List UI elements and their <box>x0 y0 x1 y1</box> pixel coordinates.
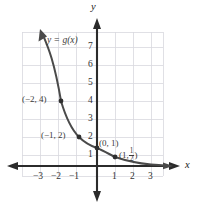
y-axis-label: y <box>91 2 96 13</box>
point-marker-neg1-2 <box>77 135 82 140</box>
y-tick-label-2: 2 <box>88 132 93 142</box>
fraction-one-half: 12 <box>129 148 134 164</box>
x-axis <box>7 162 180 170</box>
coordinate-plane <box>0 0 201 208</box>
y-tick-label-5: 5 <box>88 78 93 88</box>
point-label-1-half: (1,12) <box>119 148 138 164</box>
y-axis <box>93 18 101 202</box>
y-tick-label-7: 7 <box>88 42 93 52</box>
point-label-1-half-prefix: (1, <box>119 150 129 160</box>
point-label-1-half-suffix: ) <box>135 150 138 160</box>
y-tick-label-3: 3 <box>88 114 93 124</box>
x-tick-label-2: 2 <box>130 172 135 182</box>
point-label-neg1-2: (−1, 2) <box>41 131 66 140</box>
function-curve <box>39 29 174 169</box>
x-tick-label-neg2: −2 <box>51 172 61 182</box>
point-label-neg2-4: (−2, 4) <box>22 95 47 104</box>
point-marker-1-half <box>113 155 118 160</box>
x-axis-label: x <box>185 160 190 171</box>
y-tick-label-4: 4 <box>88 96 93 106</box>
y-tick-label-1: 1 <box>88 150 93 160</box>
x-tick-label-neg3: −3 <box>33 172 43 182</box>
x-tick-label-3: 3 <box>148 172 153 182</box>
y-tick-label-6: 6 <box>88 60 93 70</box>
x-tick-label-neg1: −1 <box>69 172 79 182</box>
graph-figure: y x 7 6 5 4 3 2 1 −3 −2 −1 1 2 3 y = g(x… <box>0 0 201 208</box>
curve-equation-label: y = g(x) <box>47 36 78 46</box>
point-marker-neg2-4 <box>59 99 64 104</box>
fraction-denominator: 2 <box>129 156 134 163</box>
x-tick-label-1: 1 <box>112 172 117 182</box>
point-label-0-1: (0, 1) <box>99 139 119 148</box>
